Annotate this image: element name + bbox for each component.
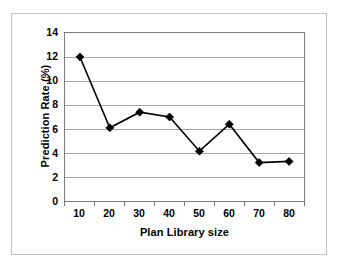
x-tick-mark-0 bbox=[64, 202, 65, 206]
x-tick-label-50: 50 bbox=[184, 207, 214, 219]
gridlines bbox=[65, 57, 304, 178]
data-point-marker bbox=[285, 157, 293, 165]
x-tick-mark-2 bbox=[124, 202, 125, 206]
x-tick-mark-7 bbox=[274, 202, 275, 206]
data-series-prediction-rate bbox=[76, 53, 293, 167]
x-tick-label-10: 10 bbox=[64, 207, 94, 219]
y-axis-title: Prediction Rate (%) bbox=[39, 31, 51, 201]
x-axis-tick-labels: 10 20 30 40 50 60 70 80 bbox=[64, 207, 305, 223]
chart-frame: 14 12 10 8 6 4 2 0 bbox=[11, 13, 327, 255]
data-point-marker bbox=[76, 53, 84, 61]
x-tick-mark-4 bbox=[184, 202, 185, 206]
x-tick-label-30: 30 bbox=[124, 207, 154, 219]
series-line bbox=[80, 57, 289, 163]
plot-svg bbox=[65, 33, 304, 201]
series-markers bbox=[76, 53, 293, 167]
data-point-marker bbox=[106, 124, 114, 132]
x-tick-mark-3 bbox=[154, 202, 155, 206]
x-tick-label-60: 60 bbox=[214, 207, 244, 219]
x-axis-title: Plan Library size bbox=[64, 226, 305, 238]
x-tick-mark-1 bbox=[94, 202, 95, 206]
x-tick-label-80: 80 bbox=[274, 207, 304, 219]
plot-area bbox=[64, 32, 305, 202]
x-tick-mark-6 bbox=[244, 202, 245, 206]
x-tick-label-20: 20 bbox=[94, 207, 124, 219]
x-tick-label-70: 70 bbox=[244, 207, 274, 219]
chart-figure: 14 12 10 8 6 4 2 0 bbox=[0, 0, 339, 270]
x-tick-mark-5 bbox=[214, 202, 215, 206]
x-tick-label-40: 40 bbox=[154, 207, 184, 219]
data-point-marker bbox=[136, 108, 144, 116]
x-tick-mark-8 bbox=[304, 202, 305, 206]
